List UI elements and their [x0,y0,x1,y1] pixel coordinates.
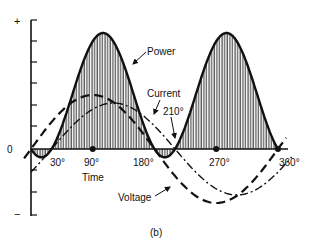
angle-label-90: 90° [84,157,99,168]
y-axis-ticks [31,20,37,215]
angle-label-30: 30° [50,157,65,168]
voltage-label: Voltage [118,192,152,203]
figure-caption: (b) [150,227,162,238]
y-minus-label: − [14,208,20,220]
angle-210-arrow [171,117,175,138]
current-arrow [154,100,160,114]
voltage-arrow [155,187,170,196]
angle-label-270: 270° [209,157,230,168]
angle-label-360: 360° [279,157,300,168]
angle-label-210: 210° [163,106,184,117]
power-arrow [133,52,146,64]
power-waveform-figure: + 0 − 30° 90° 180° 270° 360° 210° Time P… [0,0,317,245]
y-axis [31,20,37,216]
y-zero-label: 0 [7,144,13,155]
y-plus-label: + [14,15,20,27]
time-axis-label: Time [82,172,104,183]
current-label: Current [147,88,181,99]
angle-label-180: 180° [133,157,154,168]
power-label: Power [147,46,176,57]
